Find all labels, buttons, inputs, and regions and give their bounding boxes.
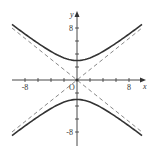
y-tick-label: 8 [69, 24, 73, 33]
y-axis-arrow-icon [75, 11, 80, 17]
origin-label: O [69, 83, 75, 92]
x-axis-label: x [142, 82, 147, 91]
y-tick-label: -8 [66, 128, 73, 137]
origin-point [75, 78, 78, 81]
x-tick-label: -8 [22, 83, 29, 92]
hyperbola-plot: x y O -888-8 [0, 0, 153, 152]
x-tick-label: 8 [127, 83, 131, 92]
y-axis-label: y [69, 10, 74, 19]
